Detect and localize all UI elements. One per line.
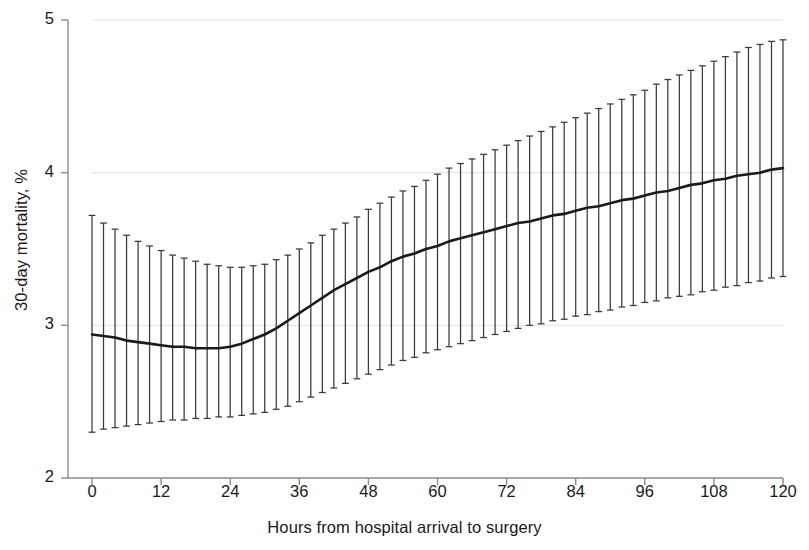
x-tick-label: 96 xyxy=(620,482,670,501)
y-axis-title: 30-day mortality, % xyxy=(12,10,36,470)
y-tick-label: 3 xyxy=(24,314,54,333)
y-tick-label: 4 xyxy=(24,162,54,181)
x-tick-label: 24 xyxy=(205,482,255,501)
confidence-interval-errorbars xyxy=(89,40,787,432)
x-tick-label: 0 xyxy=(67,482,117,501)
y-tick-label: 5 xyxy=(24,9,54,28)
plot-area xyxy=(0,0,809,550)
mortality-vs-time-to-surgery-chart: Hours from hospital arrival to surgery 3… xyxy=(0,0,809,550)
y-tick-label: 2 xyxy=(24,467,54,486)
x-tick-label: 36 xyxy=(274,482,324,501)
x-tick-label: 12 xyxy=(136,482,186,501)
x-tick-label: 48 xyxy=(343,482,393,501)
x-tick-label: 120 xyxy=(758,482,808,501)
x-tick-label: 84 xyxy=(551,482,601,501)
x-tick-label: 108 xyxy=(689,482,739,501)
x-axis-title: Hours from hospital arrival to surgery xyxy=(0,518,809,537)
x-tick-label: 60 xyxy=(413,482,463,501)
axis-ticks xyxy=(61,20,783,485)
x-tick-label: 72 xyxy=(482,482,532,501)
